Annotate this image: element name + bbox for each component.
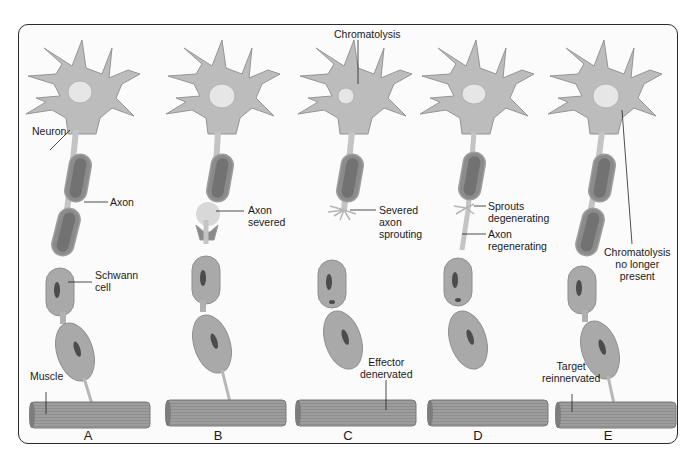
nerve-regeneration-diagram — [0, 0, 696, 463]
panel-letter-d: D — [468, 428, 488, 443]
label-schwann-cell: Schwann cell — [95, 269, 138, 293]
label-muscle: Muscle — [30, 370, 63, 382]
label-chromatolysis: Chromatolysis — [334, 28, 401, 40]
label-sprouts-degenerating: Sprouts degenerating — [488, 200, 549, 224]
label-axon-regenerating: Axon regenerating — [488, 228, 547, 252]
label-axon-severed: Axon severed — [248, 204, 285, 228]
neuron-nucleus — [68, 81, 92, 103]
label-target-reinnervated: Target reinnervated — [542, 360, 600, 384]
panel-letter-a: A — [78, 428, 98, 443]
panel-b — [165, 40, 286, 426]
panel-letter-b: B — [208, 428, 228, 443]
panel-letter-e: E — [598, 428, 618, 443]
label-chromatolysis-no-longer-present: Chromatolysis no longer present — [604, 246, 671, 282]
label-neuron: Neuron — [32, 125, 66, 137]
label-axon: Axon — [110, 196, 134, 208]
label-effector-denervated: Effector denervated — [360, 356, 413, 380]
panel-letter-c: C — [338, 428, 358, 443]
label-severed-axon-sprouting: Severed axon sprouting — [379, 204, 422, 240]
